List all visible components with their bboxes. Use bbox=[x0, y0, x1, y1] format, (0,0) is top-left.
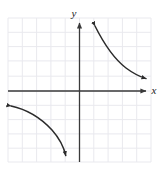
coordinate-plane-svg: y x bbox=[0, 0, 163, 171]
x-axis-label: x bbox=[151, 84, 157, 96]
hyperbola-graph-figure: y x bbox=[0, 0, 163, 171]
y-axis-label: y bbox=[71, 7, 77, 19]
axes-group bbox=[8, 23, 146, 162]
curve-branch-quadrant-one bbox=[95, 26, 146, 79]
